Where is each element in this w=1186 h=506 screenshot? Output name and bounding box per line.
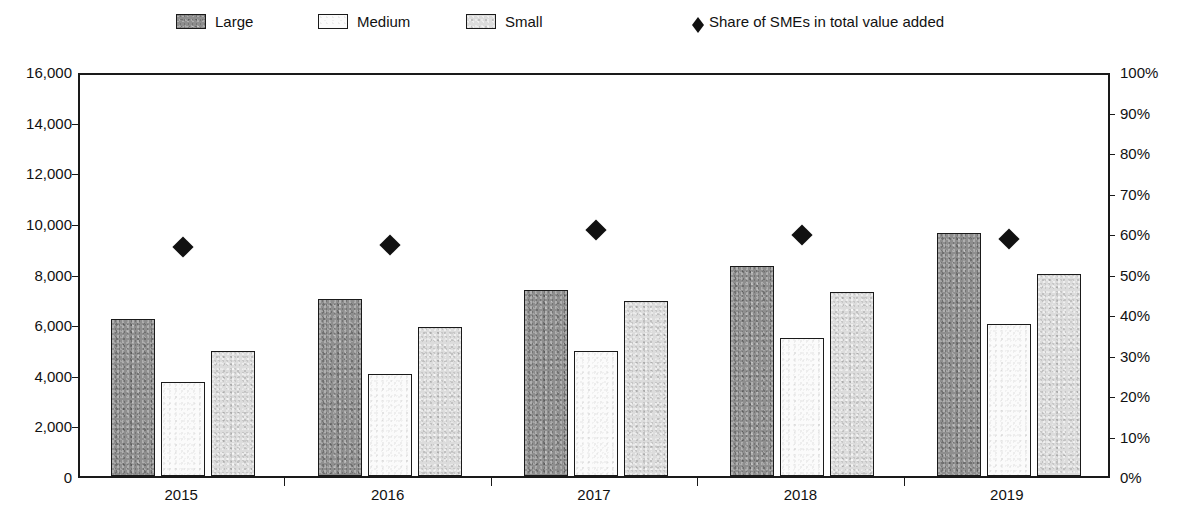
bars-layer: [80, 75, 1108, 476]
y-axis-right-tick-label: 10%: [1120, 430, 1150, 445]
x-axis-tick-label: 2017: [577, 487, 610, 503]
legend-label-large: Large: [215, 14, 253, 29]
y-axis-right-tick-label: 20%: [1120, 389, 1150, 404]
bar-small-2019: [1037, 274, 1081, 477]
y-axis-right-tick-label: 0%: [1120, 470, 1142, 485]
legend-swatch-medium-icon: [318, 14, 348, 29]
legend-label-sme-share: Share of SMEs in total value added: [709, 14, 944, 29]
y-axis-left-tick-label: 16,000: [26, 65, 72, 80]
y-axis-right-tick-label: 50%: [1120, 268, 1150, 283]
bar-small-2018: [830, 292, 874, 476]
x-axis-tick-label: 2019: [990, 487, 1023, 503]
bar-medium-2017: [574, 351, 618, 476]
bar-medium-2018: [780, 338, 824, 476]
y-axis-right-tick-label: 80%: [1120, 146, 1150, 161]
sme-share-marker-2019: [998, 229, 1019, 250]
bar-large-2019: [937, 233, 981, 476]
y-axis-right-tick-label: 70%: [1120, 187, 1150, 202]
x-axis-tick-label: 2018: [784, 487, 817, 503]
x-axis-group-separator: [904, 478, 905, 486]
y-axis-left-tick-label: 2,000: [34, 419, 72, 434]
y-axis-left-tick-label: 12,000: [26, 166, 72, 181]
sme-share-marker-2017: [585, 220, 606, 241]
bar-small-2015: [211, 351, 255, 476]
y-axis-right-tick-label: 40%: [1120, 308, 1150, 323]
bar-large-2017: [524, 290, 568, 476]
bar-medium-2015: [161, 382, 205, 476]
plot-area: [78, 73, 1110, 478]
legend-swatch-large-icon: [176, 14, 206, 29]
y-axis-left-tick-label: 10,000: [26, 217, 72, 232]
y-axis-left-tick-label: 4,000: [34, 369, 72, 384]
bar-small-2016: [418, 327, 462, 476]
bar-small-2017: [624, 301, 668, 476]
y-axis-right-tick-label: 60%: [1120, 227, 1150, 242]
x-axis-group-separator: [284, 478, 285, 486]
legend-item-large: Large: [176, 14, 253, 29]
legend-item-sme-share: Share of SMEs in total value added: [692, 14, 944, 29]
y-axis-left-tick-label: 0: [64, 470, 72, 485]
y-axis-right-tick-label: 100%: [1120, 65, 1158, 80]
x-axis-group-separator: [697, 478, 698, 486]
x-axis-tick-label: 2015: [165, 487, 198, 503]
diamond-marker-icon: [692, 11, 704, 25]
bar-medium-2019: [987, 324, 1031, 476]
x-axis-tick-label: 2016: [371, 487, 404, 503]
legend-label-medium: Medium: [357, 14, 410, 29]
bar-large-2018: [730, 266, 774, 476]
sme-share-marker-2018: [792, 224, 813, 245]
bar-large-2015: [111, 319, 155, 476]
chart-legend: Large Medium Small Share of SMEs in tota…: [0, 0, 1186, 44]
legend-label-small: Small: [505, 14, 543, 29]
bar-medium-2016: [368, 374, 412, 476]
legend-swatch-small-icon: [466, 14, 496, 29]
legend-item-small: Small: [466, 14, 543, 29]
bar-large-2016: [318, 299, 362, 476]
sme-share-marker-2015: [173, 237, 194, 258]
y-axis-left-tick-label: 6,000: [34, 318, 72, 333]
y-axis-left-tick-label: 14,000: [26, 116, 72, 131]
y-axis-left-tick-label: 8,000: [34, 268, 72, 283]
y-axis-right-tick-label: 30%: [1120, 349, 1150, 364]
x-axis-group-separator: [491, 478, 492, 486]
sme-share-marker-2016: [379, 234, 400, 255]
y-axis-right-tick-label: 90%: [1120, 106, 1150, 121]
legend-item-medium: Medium: [318, 14, 410, 29]
